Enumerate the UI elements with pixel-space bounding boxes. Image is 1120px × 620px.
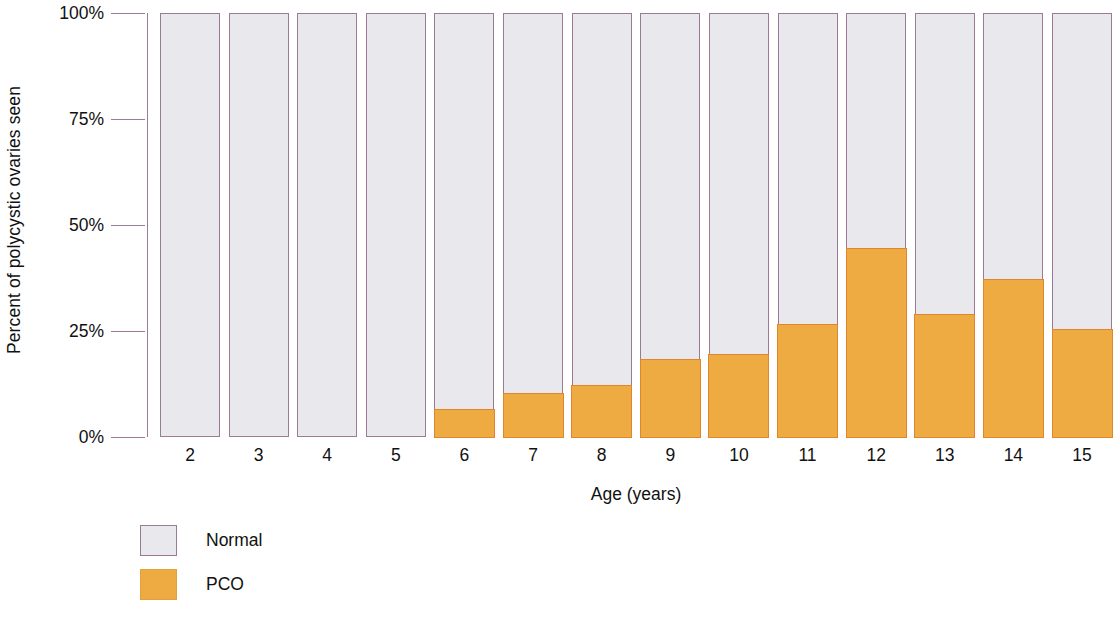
y-axis-tick [111,331,145,332]
bar-age-11[interactable] [778,13,838,437]
y-axis-tick [111,437,145,438]
y-axis-title: Percent of polycystic ovaries seen [4,0,34,450]
y-axis-tick-label: 25% [69,321,104,342]
bar-segment-pco-age-15 [1052,329,1113,438]
bar-age-12[interactable] [846,13,906,437]
y-axis: 0%25%50%75%100% [147,13,161,437]
x-axis-tick-label-4: 4 [297,445,357,466]
x-axis-tick-label-8: 8 [572,445,632,466]
bar-segment-pco-age-12 [846,248,907,437]
chart-legend: Normal PCO [140,518,262,606]
bar-segment-pco-age-10 [708,354,769,438]
x-axis-tick-label-7: 7 [503,445,563,466]
bar-segment-pco-age-14 [983,279,1044,437]
bar-age-2[interactable] [160,13,220,437]
x-axis-tick-label-12: 12 [846,445,906,466]
legend-item-normal[interactable]: Normal [140,518,262,562]
x-axis-tick-label-11: 11 [778,445,838,466]
y-axis-tick-label: 75% [69,109,104,130]
bar-age-4[interactable] [297,13,357,437]
legend-label-normal: Normal [206,530,262,551]
bar-segment-pco-age-8 [571,385,632,438]
bar-age-6[interactable] [434,13,494,437]
x-axis-tick-label-2: 2 [160,445,220,466]
bar-age-7[interactable] [503,13,563,437]
x-axis-tick-label-3: 3 [229,445,289,466]
bar-segment-pco-age-13 [914,314,975,438]
legend-item-pco[interactable]: PCO [140,562,262,606]
x-axis-tick-label-9: 9 [640,445,700,466]
plot-area [160,13,1112,437]
bar-age-9[interactable] [640,13,700,437]
x-axis-tick-label-10: 10 [709,445,769,466]
bar-age-15[interactable] [1052,13,1112,437]
y-axis-tick-label: 50% [69,215,104,236]
y-axis-tick [111,13,145,14]
y-axis-tick-label: 100% [59,3,104,24]
bar-age-13[interactable] [915,13,975,437]
legend-label-pco: PCO [206,574,244,595]
bar-segment-pco-age-6 [434,409,495,438]
bar-age-8[interactable] [572,13,632,437]
y-axis-tick [111,225,145,226]
bar-segment-pco-age-11 [777,324,838,437]
x-axis-tick-label-6: 6 [434,445,494,466]
bar-age-5[interactable] [366,13,426,437]
bar-age-10[interactable] [709,13,769,437]
x-axis-tick-label-14: 14 [983,445,1043,466]
x-axis-tick-label-13: 13 [915,445,975,466]
stacked-bar-chart: Percent of polycystic ovaries seen 0%25%… [0,0,1120,620]
y-axis-tick-label: 0% [79,427,104,448]
bar-segment-pco-age-7 [503,393,564,437]
bar-age-14[interactable] [983,13,1043,437]
bar-age-3[interactable] [229,13,289,437]
pco-swatch-icon [140,569,177,600]
x-axis-tick-label-5: 5 [366,445,426,466]
bar-segment-pco-age-9 [640,359,701,438]
x-axis-tick-label-15: 15 [1052,445,1112,466]
normal-swatch-icon [140,525,177,556]
y-axis-tick [111,119,145,120]
x-axis-title: Age (years) [160,484,1112,505]
